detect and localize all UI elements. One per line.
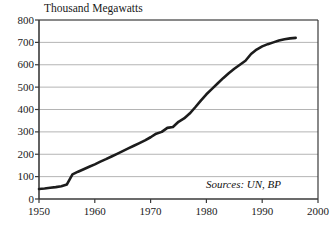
x-axis-tick-label: 1990: [242, 206, 282, 217]
y-axis-tick-label: 400: [2, 104, 34, 115]
x-axis-tick-label: 1960: [75, 206, 115, 217]
y-axis-tick-label: 200: [2, 149, 34, 160]
x-axis-tick-label: 2000: [298, 206, 334, 217]
chart-plot-area: [0, 0, 334, 227]
y-axis-tick-label: 600: [2, 59, 34, 70]
y-axis-tick-label: 800: [2, 15, 34, 26]
source-annotation: Sources: UN, BP: [206, 178, 281, 190]
data-series-line: [39, 38, 296, 189]
y-axis-tick-label: 0: [2, 194, 34, 205]
y-axis-tick-label: 100: [2, 171, 34, 182]
x-axis-tick-label: 1950: [19, 206, 59, 217]
y-axis-tick-label: 500: [2, 82, 34, 93]
gridlines: [39, 20, 318, 177]
chart-container: Thousand Megawatts 010020030040050060070…: [0, 0, 334, 227]
x-axis-tick-label: 1970: [131, 206, 171, 217]
y-axis-tick-label: 300: [2, 126, 34, 137]
x-axis-tick-label: 1980: [186, 206, 226, 217]
y-axis-tick-label: 700: [2, 37, 34, 48]
